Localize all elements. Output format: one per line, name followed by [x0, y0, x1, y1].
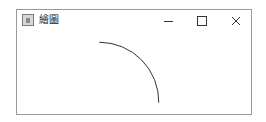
minimize-icon	[164, 21, 173, 22]
maximize-button[interactable]	[185, 10, 219, 32]
maximize-icon	[197, 16, 207, 26]
app-window: 繪圖	[16, 9, 252, 115]
title-bar[interactable]: 繪圖	[17, 10, 251, 32]
window-title: 繪圖	[39, 14, 59, 26]
drawing-canvas	[17, 32, 251, 114]
minimize-button[interactable]	[151, 10, 185, 32]
close-button[interactable]	[219, 10, 253, 32]
close-icon	[231, 16, 241, 26]
arc-shape	[99, 42, 158, 102]
app-icon[interactable]	[22, 14, 34, 26]
